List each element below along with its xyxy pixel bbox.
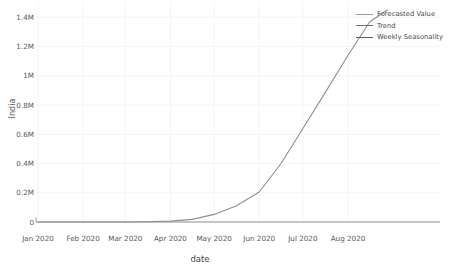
y-tick-label: 0.6M [0, 130, 34, 139]
legend-item-label: Forecasted Value [377, 10, 435, 18]
x-tick-label: Aug 2020 [318, 234, 378, 243]
y-gridlines [36, 17, 440, 192]
legend-swatch-icon [356, 14, 373, 15]
y-tick-label: 1.4M [0, 13, 34, 22]
y-tick-label: 0.4M [0, 159, 34, 168]
y-tick-label: 0 [0, 218, 34, 227]
y-tick-label: 0.8M [0, 101, 34, 110]
y-tick-label: 0.2M [0, 188, 34, 197]
legend-item[interactable]: Trend [356, 22, 443, 30]
legend-item-label: Trend [377, 22, 396, 30]
legend-item[interactable]: Weekly Seasonality [356, 33, 443, 41]
y-tick-label: 1.2M [0, 42, 34, 51]
chart-legend: Forecasted ValueTrendWeekly Seasonality [356, 10, 443, 41]
legend-item-label: Weekly Seasonality [377, 33, 443, 41]
series-line [38, 10, 387, 222]
x-gridlines [38, 2, 348, 222]
y-tick-label: 1M [0, 71, 34, 80]
legend-swatch-icon [356, 37, 373, 38]
legend-swatch-icon [356, 25, 373, 26]
series-layer [38, 10, 387, 222]
legend-item[interactable]: Forecasted Value [356, 10, 443, 18]
x-axis-title: date [36, 254, 364, 264]
chart-container: India date 00.2M0.4M0.6M0.8M1M1.2M1.4M J… [0, 0, 449, 273]
